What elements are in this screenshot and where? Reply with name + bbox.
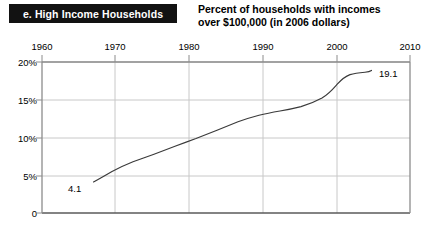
chart-gridlines [42, 62, 410, 213]
data-label-start: 4.1 [68, 183, 81, 194]
chart-plot-area [0, 0, 433, 232]
chart-figure: e. High Income Households Percent of hou… [0, 0, 433, 232]
data-line-high-income-households [94, 70, 372, 182]
axis-tick-marks [36, 55, 410, 213]
data-label-end: 19.1 [379, 68, 398, 79]
